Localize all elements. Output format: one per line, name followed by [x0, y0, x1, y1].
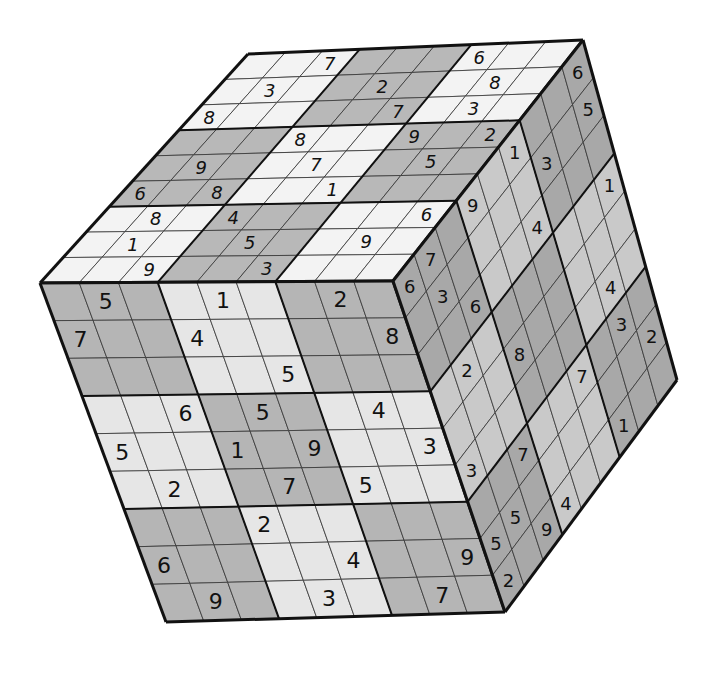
- right-face-digit: 1: [509, 142, 520, 163]
- front-face-digit: 5: [359, 473, 373, 498]
- front-face-digit: 5: [256, 400, 270, 425]
- right-face-digit: 6: [572, 62, 583, 83]
- front-face-digit: 9: [307, 436, 321, 461]
- front-face-digit: 6: [157, 553, 171, 578]
- top-face-digit: 5: [425, 151, 436, 172]
- right-face-digit: 1: [604, 175, 615, 196]
- right-face-digit: 4: [560, 493, 571, 514]
- top-face-digit: 8: [211, 182, 222, 203]
- top-face-digit: 8: [203, 107, 214, 128]
- front-face-digit: 4: [190, 326, 204, 351]
- top-face-digit: 4: [227, 207, 238, 228]
- front-face-digit: 6: [179, 401, 193, 426]
- right-face-digit: 6: [470, 296, 481, 317]
- front-face-digit: 7: [282, 474, 296, 499]
- front-face-digit: 2: [167, 477, 181, 502]
- right-face-digit: 7: [425, 249, 436, 270]
- right-face-digit: 5: [583, 99, 594, 120]
- front-face-digit: 9: [460, 545, 474, 570]
- front-face-digit: 7: [73, 327, 87, 352]
- front-face-digit: 1: [231, 438, 245, 463]
- front-face-digit: 7: [435, 583, 449, 608]
- front-face-digit: 3: [423, 434, 437, 459]
- top-face-digit: 9: [361, 231, 372, 252]
- front-face-box-line: [40, 281, 393, 283]
- front-face-digit: 9: [209, 589, 223, 614]
- top-face-digit: 6: [473, 47, 484, 68]
- top-face-digit: 9: [196, 157, 207, 178]
- top-face-digit: 2: [377, 76, 388, 97]
- right-face-digit: 9: [467, 195, 478, 216]
- right-face-digit: 3: [466, 460, 477, 481]
- right-face-digit: 9: [541, 519, 552, 540]
- top-face-digit: 7: [392, 101, 404, 122]
- sudoku-cube: 7632887389297568184615993 51274856545193…: [0, 0, 715, 675]
- right-face-digit: 4: [531, 217, 542, 238]
- front-face-digit: 4: [372, 398, 386, 423]
- right-face-digit: 3: [541, 153, 552, 174]
- right-face-digit: 7: [517, 444, 528, 465]
- top-face-digit: 3: [264, 80, 275, 101]
- right-face-digit: 7: [576, 366, 587, 387]
- top-face-digit: 1: [127, 234, 138, 255]
- top-face-digit: 1: [327, 179, 338, 200]
- right-face-digit: 3: [616, 314, 627, 335]
- right-face-digit: 8: [514, 344, 525, 365]
- top-face-digit: 8: [489, 72, 500, 93]
- front-face-digit: 3: [322, 586, 336, 611]
- top-face-digit: 3: [261, 258, 272, 279]
- right-face-digit: 3: [437, 286, 448, 307]
- right-face-digit: 5: [490, 533, 501, 554]
- top-face-digit: 2: [484, 124, 495, 145]
- top-face-digit: 7: [310, 154, 322, 175]
- sudoku-cube-stage: 7632887389297568184615993 51274856545193…: [0, 0, 715, 675]
- front-face-digit: 5: [99, 289, 113, 314]
- top-face-digit: 9: [408, 126, 419, 147]
- top-face-digit: 5: [244, 232, 255, 253]
- top-face-digit: 8: [294, 129, 305, 150]
- front-face-digit: 4: [347, 548, 361, 573]
- front-face-digit: 2: [257, 512, 271, 537]
- right-face-digit: 2: [646, 326, 657, 347]
- top-face-digit: 8: [150, 208, 161, 229]
- right-face-digit: 1: [618, 415, 629, 436]
- right-face-digit: 4: [605, 277, 616, 298]
- right-face-digit: 2: [503, 570, 514, 591]
- top-face-digit: 6: [134, 183, 145, 204]
- front-face-digit: 8: [385, 324, 399, 349]
- top-face-digit: 6: [421, 204, 432, 225]
- right-face-digit: 6: [404, 276, 415, 297]
- top-face-digit: 9: [144, 259, 155, 280]
- right-face-digit: 5: [510, 507, 521, 528]
- front-face-digit: 5: [115, 440, 129, 465]
- right-face-digit: 2: [461, 360, 472, 381]
- top-face-digit: 3: [468, 98, 479, 119]
- front-face-digit: 1: [216, 288, 230, 313]
- front-face-digit: 5: [281, 362, 295, 387]
- top-face-digit: 7: [324, 53, 336, 74]
- front-face-digit: 2: [334, 287, 348, 312]
